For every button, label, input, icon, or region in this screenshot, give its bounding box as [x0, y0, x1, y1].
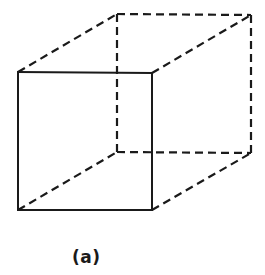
solid-edge-front-top-left-to-front-top-right: [18, 72, 152, 73]
dashed-edge-front-bottom-right-to-back-bottom-right: [152, 153, 251, 210]
cube-diagram: [0, 0, 265, 275]
dashed-edge-back-bottom-left-to-back-bottom-right: [117, 152, 251, 153]
dashed-edge-back-top-left-to-back-top-right: [117, 14, 251, 15]
dashed-edge-front-top-left-to-back-top-left: [18, 14, 117, 72]
dashed-edge-front-bottom-left-to-back-bottom-left: [18, 152, 117, 210]
figure-caption: (a): [72, 247, 101, 267]
solid-edges: [18, 72, 152, 210]
dashed-edge-front-top-right-to-back-top-right: [152, 15, 251, 73]
dashed-edges: [18, 14, 251, 210]
